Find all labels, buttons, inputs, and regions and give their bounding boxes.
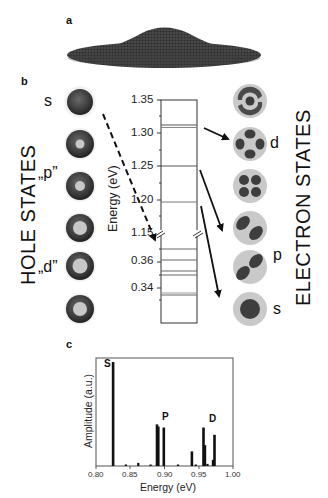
spectrum-bar bbox=[213, 435, 216, 466]
spectrum-bar bbox=[157, 427, 160, 467]
spectrum-bar bbox=[195, 465, 197, 467]
spectrum-bar bbox=[163, 428, 166, 467]
spectrum-bar bbox=[137, 463, 139, 466]
chart-annotation-d: D bbox=[209, 413, 216, 424]
spectrum-bar bbox=[150, 465, 152, 467]
chart-annotation-s: S bbox=[104, 358, 111, 369]
spectrum-bar bbox=[125, 465, 127, 467]
spectrum-bar bbox=[191, 451, 194, 466]
chart-x-tick-0-90: 0.90 bbox=[157, 470, 173, 479]
chart-x-tick-1-00: 1.00 bbox=[225, 470, 241, 479]
amplitude-spectrum-chart bbox=[0, 0, 328, 498]
spectrum-bar bbox=[206, 464, 208, 466]
chart-x-axis-title: Energy (eV) bbox=[140, 481, 196, 493]
spectrum-bar bbox=[177, 465, 179, 467]
chart-x-tick-0-95: 0.95 bbox=[191, 470, 207, 479]
spectrum-bar bbox=[112, 362, 115, 466]
chart-x-tick-0-85: 0.85 bbox=[122, 470, 138, 479]
chart-x-tick-0-80: 0.80 bbox=[88, 470, 104, 479]
spectrum-bar bbox=[204, 445, 207, 466]
chart-annotation-p: P bbox=[162, 411, 169, 422]
